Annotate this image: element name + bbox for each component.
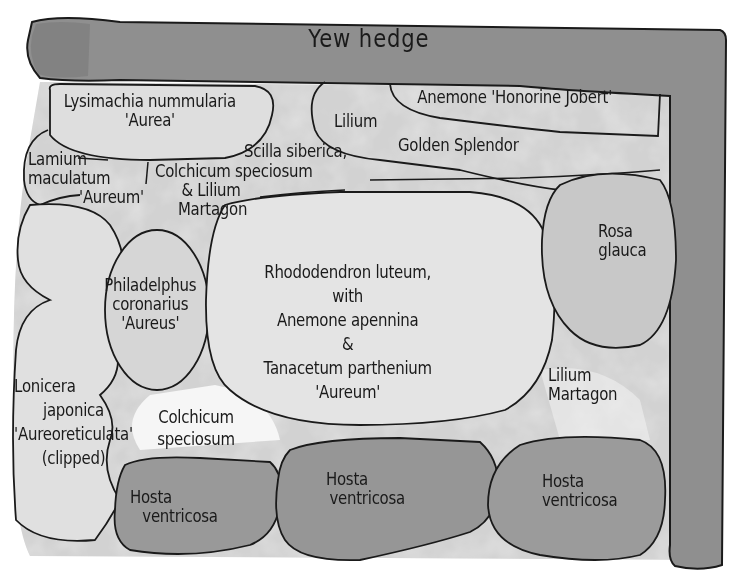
plant-label-anemone-honorine: Anemone 'Honorine Jobert' — [417, 88, 612, 107]
label-line: Colchicum — [157, 406, 235, 428]
plant-label-lilium-martagon: Lilium Martagon — [548, 366, 617, 404]
lonicera-bed — [13, 204, 123, 541]
label-line: (clipped) — [14, 446, 133, 470]
label-line: Hosta — [542, 472, 617, 491]
plant-label-lysimachia: Lysimachia nummularia 'Aurea' — [64, 92, 236, 130]
label-line: with — [263, 284, 431, 308]
plant-label-scilla: Scilla siberica, — [244, 142, 347, 161]
label-line: Lamium — [28, 150, 144, 169]
label-line: glauca — [584, 241, 646, 260]
label-line: Lysimachia nummularia — [64, 92, 236, 111]
label-line: ventricosa — [542, 491, 617, 510]
plant-label-hosta-middle: Hosta ventricosa — [326, 470, 405, 508]
label-line: ventricosa — [130, 507, 218, 526]
plant-label-philadelphus: Philadelphus coronarius 'Aureus' — [104, 276, 196, 333]
hedge-label: Yew hedge — [308, 30, 429, 49]
label-line: japonica — [14, 398, 133, 422]
label-line: Colchicum speciosum — [155, 162, 313, 181]
plant-label-hosta-left: Hosta ventricosa — [130, 488, 218, 526]
label-line: Philadelphus — [104, 276, 196, 295]
label-line: 'Aureum' — [263, 380, 431, 404]
label-line: Anemone 'Honorine Jobert' — [417, 88, 612, 107]
label-line: Rhododendron luteum, — [263, 260, 431, 284]
label-line: speciosum — [157, 428, 235, 450]
plant-label-hosta-right: Hosta ventricosa — [542, 472, 617, 510]
plant-label-colchicum-speciosum: Colchicum speciosum — [157, 406, 235, 450]
label-line: Martagon — [548, 385, 617, 404]
label-line: Anemone apennina — [263, 308, 431, 332]
label-line: 'Aureum' — [28, 188, 144, 207]
plant-label-lonicera: Lonicera japonica 'Aureoreticulata' (cli… — [14, 374, 133, 470]
label-line: Lilium — [334, 112, 377, 131]
rosa-glauca-bed — [542, 174, 676, 348]
label-line: Rosa — [584, 222, 646, 241]
label-line: & Lilium — [155, 181, 313, 200]
plant-label-colchicum-lilium: Colchicum speciosum & Lilium Martagon — [155, 162, 313, 219]
label-line: Golden Splendor — [398, 136, 519, 155]
label-line: ventricosa — [326, 489, 405, 508]
label-line: maculatum — [28, 169, 144, 188]
plant-label-lamium: Lamium maculatum 'Aureum' — [28, 150, 144, 207]
label-line: Hosta — [326, 470, 405, 489]
label-line: Scilla siberica, — [244, 142, 347, 161]
label-line: coronarius — [104, 295, 196, 314]
label-line: 'Aureoreticulata' — [14, 422, 133, 446]
label-line: Martagon — [155, 200, 313, 219]
label-line: 'Aureus' — [104, 314, 196, 333]
label-line: & — [263, 332, 431, 356]
plant-label-lilium-golden-cultivar: Golden Splendor — [398, 136, 519, 155]
label-line: 'Aurea' — [64, 111, 236, 130]
label-line: Lilium — [548, 366, 617, 385]
plant-label-rosa-glauca: Rosa glauca — [584, 222, 646, 260]
plant-label-lilium-golden: Lilium — [334, 112, 377, 131]
label-line: Hosta — [130, 488, 218, 507]
label-line: Tanacetum parthenium — [263, 356, 431, 380]
label-line: Lonicera — [14, 374, 133, 398]
plant-label-rhododendron: Rhododendron luteum, with Anemone apenni… — [263, 260, 431, 404]
